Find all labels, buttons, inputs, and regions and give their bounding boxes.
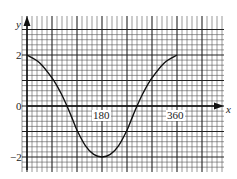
- x-tick-180: 180: [92, 110, 111, 121]
- x-axis-label: x: [226, 104, 231, 115]
- x-axis-arrow-icon: [214, 103, 224, 110]
- y-tick-0: 0: [16, 101, 22, 112]
- x-tick-360: 360: [166, 110, 185, 121]
- y-tick-neg2: −2: [10, 152, 22, 163]
- chart-plot-area: [0, 0, 237, 179]
- y-axis-arrow-icon: [24, 16, 31, 26]
- y-tick-2: 2: [16, 50, 22, 61]
- y-axis-label: y: [16, 19, 21, 30]
